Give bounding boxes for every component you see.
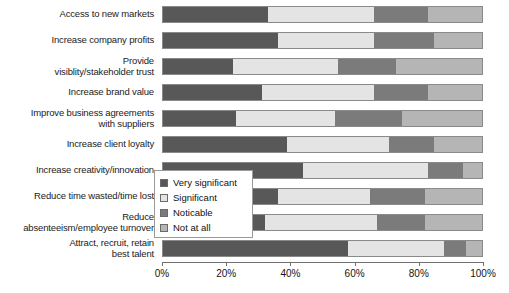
bar-segment	[402, 111, 482, 126]
legend-item: Noticable	[160, 205, 248, 220]
category-label-line: Provide	[2, 56, 154, 67]
x-axis-tick-mark	[162, 262, 163, 266]
category-label: Reduce time wasted/time lost	[2, 191, 154, 202]
bar-segment	[163, 111, 236, 126]
category-label-line: absenteeism/employee turnover	[2, 223, 154, 234]
bar-segment	[374, 85, 428, 100]
x-axis-tick-mark	[226, 262, 227, 266]
x-axis-tick-label: 80%	[399, 268, 439, 279]
bar-segment	[163, 85, 262, 100]
category-label: Increase company profits	[2, 35, 154, 46]
category-label-line: Attract, recruit, retain	[2, 238, 154, 249]
bar-segment	[434, 33, 482, 48]
bar-segment	[389, 137, 434, 152]
category-label: Improve business agreementswith supplier…	[2, 108, 154, 129]
category-label-line: Increase brand value	[2, 87, 154, 98]
x-axis-tick-label: 0%	[142, 268, 182, 279]
bar-segment	[444, 241, 466, 256]
bar-row	[162, 32, 483, 49]
legend-swatch-icon	[160, 179, 168, 187]
bar-segment	[262, 85, 374, 100]
bar-segment	[163, 241, 348, 256]
bar-row	[162, 110, 483, 127]
legend-swatch-icon	[160, 194, 168, 202]
bar-segment	[233, 59, 338, 74]
category-label: Access to new markets	[2, 9, 154, 20]
bar-row	[162, 6, 483, 23]
x-axis-line	[162, 262, 484, 263]
category-label: Increase brand value	[2, 87, 154, 98]
legend-label: Noticable	[173, 207, 213, 218]
bar-segment	[377, 215, 425, 230]
legend-item: Significant	[160, 190, 248, 205]
legend-label: Not at all	[173, 222, 211, 233]
bar-row	[162, 240, 483, 257]
bar-row	[162, 58, 483, 75]
x-axis-tick-mark	[419, 262, 420, 266]
bar-segment	[287, 137, 389, 152]
category-label-line: Improve business agreements	[2, 108, 154, 119]
bar-segment	[268, 7, 373, 22]
x-axis-tick-label: 20%	[206, 268, 246, 279]
x-axis-tick-label: 40%	[270, 268, 310, 279]
bar-segment	[338, 59, 395, 74]
bar-segment	[396, 59, 482, 74]
bar-segment	[463, 163, 482, 178]
legend-swatch-icon	[160, 224, 168, 232]
bar-row	[162, 136, 483, 153]
x-axis-tick-label: 60%	[335, 268, 375, 279]
category-label-line: with suppliers	[2, 119, 154, 130]
category-label-line: Reduce	[2, 212, 154, 223]
x-axis-tick-mark	[355, 262, 356, 266]
category-label: Attract, recruit, retainbest talent	[2, 238, 154, 259]
bar-segment	[265, 215, 377, 230]
bar-segment	[278, 189, 371, 204]
category-label: Reduceabsenteeism/employee turnover	[2, 212, 154, 233]
bar-segment	[428, 7, 482, 22]
bar-row	[162, 84, 483, 101]
bar-segment	[303, 163, 427, 178]
bar-segment	[425, 189, 482, 204]
x-axis-tick-mark	[290, 262, 291, 266]
bar-segment	[236, 111, 335, 126]
category-label-line: Increase client loyalty	[2, 139, 154, 150]
legend-swatch-icon	[160, 209, 168, 217]
legend-item: Very significant	[160, 175, 248, 190]
legend-label: Very significant	[173, 177, 237, 188]
legend-label: Significant	[173, 192, 217, 203]
bar-segment	[370, 189, 424, 204]
category-label-line: visiblity/stakeholder trust	[2, 67, 154, 78]
legend-item: Not at all	[160, 220, 248, 235]
bar-segment	[434, 137, 482, 152]
bar-segment	[335, 111, 402, 126]
bar-segment	[466, 241, 482, 256]
chart-legend: Very significantSignificantNoticableNot …	[154, 170, 253, 238]
category-label: Increase client loyalty	[2, 139, 154, 150]
bar-segment	[163, 59, 233, 74]
x-axis-tick-label: 100%	[463, 268, 503, 279]
bar-segment	[374, 33, 435, 48]
category-label: Providevisiblity/stakeholder trust	[2, 56, 154, 77]
category-label-line: Access to new markets	[2, 9, 154, 20]
bar-segment	[163, 137, 287, 152]
bar-segment	[163, 33, 278, 48]
bar-segment	[278, 33, 374, 48]
bar-segment	[428, 163, 463, 178]
stacked-bar-chart: Access to new marketsIncrease company pr…	[0, 0, 509, 293]
x-axis-tick-mark	[483, 262, 484, 266]
bar-segment	[163, 7, 268, 22]
bar-segment	[348, 241, 444, 256]
bar-segment	[374, 7, 428, 22]
category-label-line: Increase company profits	[2, 35, 154, 46]
category-label: Increase creativity/innovation	[2, 165, 154, 176]
bar-segment	[425, 215, 482, 230]
category-label-line: Reduce time wasted/time lost	[2, 191, 154, 202]
category-label-line: best talent	[2, 249, 154, 260]
bar-segment	[428, 85, 482, 100]
category-label-line: Increase creativity/innovation	[2, 165, 154, 176]
category-axis-labels: Access to new marketsIncrease company pr…	[0, 0, 158, 262]
